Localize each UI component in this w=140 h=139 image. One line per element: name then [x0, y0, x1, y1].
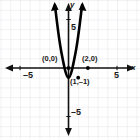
point-label-origin-root: (0,0): [42, 55, 57, 63]
parabola-graph: –5 5 5 –5 x y (0,0) (2,0) (1,–1): [0, 0, 140, 139]
point-label-vertex: (1,–1): [70, 78, 90, 86]
plot-area: [0, 0, 140, 139]
x-axis-label: x: [131, 64, 135, 72]
y-axis-label: y: [70, 1, 74, 9]
x-tick-label-neg5: –5: [23, 71, 33, 80]
grid-lines: [0, 0, 140, 139]
point-label-right-root: (2,0): [82, 55, 97, 63]
x-tick-label-pos5: 5: [114, 71, 119, 80]
y-tick-label-neg5: –5: [71, 108, 81, 117]
y-tick-label-pos5: 5: [71, 23, 76, 32]
